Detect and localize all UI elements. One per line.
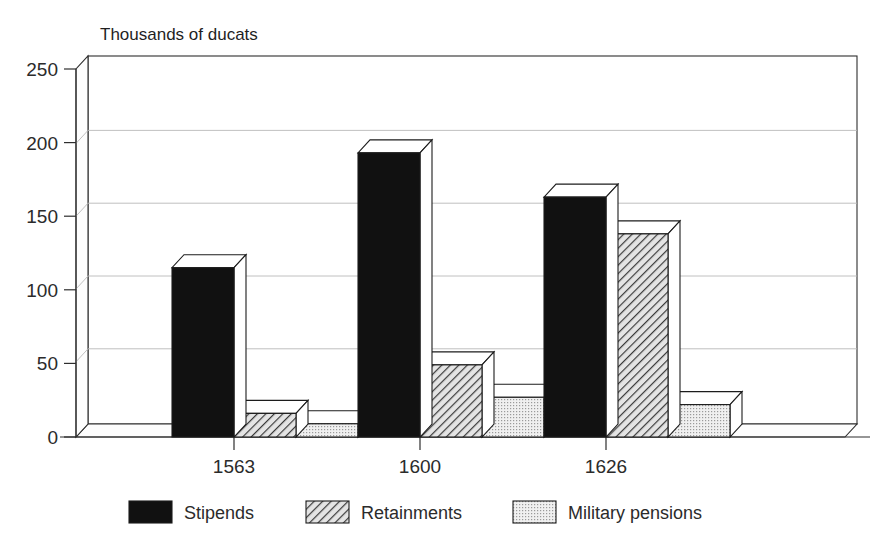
legend-swatch-stipends — [129, 501, 172, 523]
y-tick-label-100: 100 — [26, 280, 58, 301]
legend-item-military-pensions[interactable]: Military pensions — [513, 501, 702, 523]
y-tick-label-150: 150 — [26, 206, 58, 227]
x-tick-label-1600: 1600 — [399, 456, 441, 477]
legend-item-stipends[interactable]: Stipends — [129, 501, 254, 523]
legend-swatch-military-pensions — [513, 501, 556, 523]
chart-figure: 250 200 150 100 50 0 Thousands of ducats — [0, 0, 882, 557]
x-tick-label-1626: 1626 — [585, 456, 627, 477]
y-tick-label-200: 200 — [26, 133, 58, 154]
chart-legend: Stipends Retainments Military pensions — [129, 501, 702, 523]
legend-label-stipends: Stipends — [184, 503, 254, 523]
legend-label-retainments: Retainments — [361, 503, 462, 523]
x-tick-label-1563: 1563 — [213, 456, 255, 477]
y-axis-tick-labels: 250 200 150 100 50 0 — [26, 59, 58, 448]
legend-label-military-pensions: Military pensions — [568, 503, 702, 523]
bar-chart-3d: 250 200 150 100 50 0 Thousands of ducats — [0, 0, 882, 557]
x-axis-tick-labels: 1563 1600 1626 — [213, 456, 627, 477]
legend-item-retainments[interactable]: Retainments — [306, 501, 462, 523]
plot-left-wall — [76, 56, 88, 437]
bar-1626-stipends — [544, 184, 618, 437]
bar-1563-stipends — [172, 255, 246, 437]
chart-title: Thousands of ducats — [100, 25, 258, 44]
legend-swatch-retainments — [306, 501, 349, 523]
y-tick-label-50: 50 — [37, 353, 58, 374]
y-tick-label-250: 250 — [26, 59, 58, 80]
bar-1600-stipends — [358, 140, 432, 437]
y-tick-label-0: 0 — [47, 427, 58, 448]
y-axis-ticks — [64, 69, 76, 437]
x-axis-ticks — [234, 437, 606, 450]
